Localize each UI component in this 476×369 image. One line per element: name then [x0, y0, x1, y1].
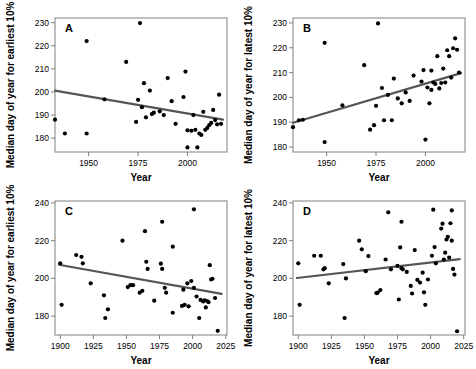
- y-axis-title: Median day of year for latest 10%: [243, 189, 254, 347]
- data-point: [323, 266, 327, 270]
- data-point: [191, 113, 195, 117]
- data-point: [455, 48, 459, 52]
- data-point: [146, 267, 150, 271]
- data-point: [79, 255, 83, 259]
- data-point: [340, 103, 344, 107]
- y-tick-label: 200: [273, 92, 287, 102]
- data-point: [209, 121, 213, 125]
- panel-c-plot: 180200220240190019251950197520002025CYea…: [0, 185, 238, 369]
- data-point: [409, 284, 413, 288]
- data-point: [440, 222, 444, 226]
- data-point: [419, 79, 423, 83]
- data-point: [421, 68, 425, 72]
- data-point: [452, 273, 456, 277]
- data-point: [213, 296, 217, 300]
- data-point: [434, 261, 438, 265]
- data-point: [448, 221, 452, 225]
- panel-letter: B: [303, 22, 311, 34]
- data-point: [143, 229, 147, 233]
- y-tick-label: 220: [273, 236, 287, 246]
- data-point: [453, 36, 457, 40]
- data-point: [103, 316, 107, 320]
- data-point: [425, 85, 429, 89]
- y-tick-label: 200: [273, 273, 287, 283]
- data-point: [449, 75, 453, 79]
- data-point: [201, 110, 205, 114]
- data-point: [443, 80, 447, 84]
- data-point: [408, 99, 412, 103]
- data-point: [446, 235, 450, 239]
- data-point: [429, 69, 433, 73]
- x-axis-title: Year: [130, 355, 151, 366]
- data-point: [398, 245, 402, 249]
- x-tick-label: 1975: [129, 158, 148, 168]
- data-point: [441, 67, 445, 71]
- data-point: [163, 286, 167, 290]
- data-point: [192, 207, 196, 211]
- y-tick-label: 230: [273, 18, 287, 28]
- data-point: [60, 303, 64, 307]
- data-point: [364, 269, 368, 273]
- x-tick-label: 2000: [183, 341, 202, 351]
- data-point: [181, 288, 185, 292]
- x-axis-title: Year: [130, 172, 151, 183]
- data-point: [58, 261, 62, 265]
- data-point: [450, 208, 454, 212]
- data-point: [343, 316, 347, 320]
- y-tick-label: 190: [273, 117, 287, 127]
- data-point: [120, 239, 124, 243]
- data-point: [323, 140, 327, 144]
- data-point: [298, 303, 302, 307]
- data-point: [401, 267, 405, 271]
- data-point: [423, 303, 427, 307]
- data-point: [380, 86, 384, 90]
- data-point: [85, 131, 89, 135]
- data-point: [382, 118, 386, 122]
- data-point: [106, 307, 110, 311]
- data-point: [89, 281, 93, 285]
- data-point: [435, 54, 439, 58]
- data-point: [74, 253, 78, 257]
- data-point: [185, 128, 189, 132]
- data-point: [199, 133, 203, 137]
- panel-a: 180190200210220230195019752000AYearMedia…: [0, 0, 238, 185]
- data-point: [158, 109, 162, 113]
- data-point: [164, 291, 168, 295]
- data-point: [445, 48, 449, 52]
- data-point: [148, 88, 152, 92]
- plot-frame: [55, 18, 227, 152]
- data-point: [451, 267, 455, 271]
- y-tick-label: 180: [273, 311, 287, 321]
- x-tick-label: 1950: [355, 341, 374, 351]
- data-point: [138, 21, 142, 25]
- x-tick-label: 1975: [388, 341, 407, 351]
- y-tick-label: 240: [35, 198, 49, 208]
- data-point: [208, 263, 212, 267]
- data-point: [187, 304, 191, 308]
- x-tick-label: 1900: [289, 341, 308, 351]
- data-point: [431, 208, 435, 212]
- data-point: [296, 261, 300, 265]
- data-point: [392, 76, 396, 80]
- data-point: [102, 293, 106, 297]
- data-point: [400, 101, 404, 105]
- data-point: [81, 261, 85, 265]
- data-point: [457, 70, 461, 74]
- y-tick-label: 220: [35, 41, 49, 51]
- data-point: [134, 120, 138, 124]
- data-point: [439, 226, 443, 230]
- y-tick-label: 230: [35, 18, 49, 28]
- data-point: [192, 286, 196, 290]
- data-point: [206, 300, 210, 304]
- y-tick-label: 210: [35, 64, 49, 74]
- data-point: [341, 262, 345, 266]
- data-point: [404, 90, 408, 94]
- panel-a-plot: 180190200210220230195019752000AYearMedia…: [0, 0, 238, 185]
- data-point: [432, 245, 436, 249]
- data-point: [437, 86, 441, 90]
- data-point: [136, 98, 140, 102]
- data-point: [390, 118, 394, 122]
- trend-line: [55, 91, 223, 120]
- data-point: [327, 281, 331, 285]
- data-point: [189, 129, 193, 133]
